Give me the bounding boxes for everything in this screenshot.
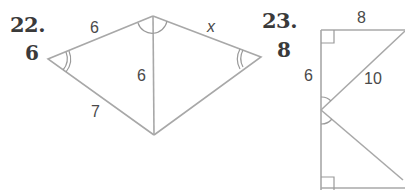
figure-22-right-double-arc-2: [237, 49, 240, 69]
figure-22-right-double-arc-1: [241, 50, 243, 67]
figure-23-top-right-angle-mark: [321, 30, 334, 43]
figure-23-label-left: 6: [304, 67, 313, 84]
figure-23-label-top: 8: [357, 9, 366, 26]
figure-23-label-hypotenuse: 10: [364, 70, 382, 87]
figure-22: 6 6 7 x: [48, 16, 261, 135]
figure-22-label-top-left: 6: [90, 19, 99, 36]
figure-23-upper-angle-arc: [321, 97, 331, 101]
figure-22-left-double-arc-1: [63, 52, 67, 70]
figure-23: 8 6 10: [304, 9, 405, 190]
figure-22-label-diagonal: 6: [137, 67, 146, 84]
figure-23-lower-angle-arc: [321, 119, 332, 124]
figure-22-label-bottom-left: 7: [91, 103, 100, 120]
geometry-figures: 6 6 7 x 8 6 10: [0, 0, 405, 190]
figure-23-lower-hypotenuse: [321, 110, 403, 180]
figure-22-label-x: x: [206, 18, 216, 35]
